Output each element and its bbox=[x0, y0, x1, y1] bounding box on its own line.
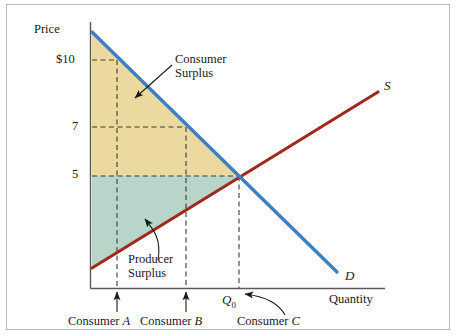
x-marker-consumer-c: Consumer C bbox=[237, 314, 300, 329]
producer-surplus-line2: Surplus bbox=[128, 266, 173, 280]
consumer-c-pointer bbox=[245, 294, 285, 315]
y-tick-label-7: 7 bbox=[72, 119, 78, 134]
x-marker-consumer-a: Consumer A bbox=[68, 314, 130, 329]
consumer-surplus-annotation: Consumer Surplus bbox=[175, 52, 226, 80]
q0-base: Q bbox=[222, 292, 231, 307]
consumer-c-letter: C bbox=[292, 314, 300, 328]
x-marker-consumer-b: Consumer B bbox=[140, 314, 202, 329]
q0-subscript: 0 bbox=[231, 300, 236, 310]
consumer-b-prefix: Consumer bbox=[140, 314, 191, 328]
x-axis-label: Quantity bbox=[329, 292, 373, 307]
supply-demand-chart bbox=[0, 0, 456, 336]
consumer-c-prefix: Consumer bbox=[237, 314, 288, 328]
producer-surplus-line1: Producer bbox=[128, 252, 173, 266]
supply-curve-label: S bbox=[384, 78, 391, 94]
y-tick-label-5: 5 bbox=[72, 167, 78, 182]
y-tick-label-10: $10 bbox=[56, 52, 75, 67]
consumer-surplus-line1: Consumer bbox=[175, 52, 226, 66]
demand-curve-label: D bbox=[345, 268, 354, 284]
y-axis-label: Price bbox=[34, 22, 60, 37]
producer-surplus-annotation: Producer Surplus bbox=[128, 252, 173, 280]
consumer-surplus-line2: Surplus bbox=[175, 66, 226, 80]
consumer-a-prefix: Consumer bbox=[68, 314, 119, 328]
consumer-b-letter: B bbox=[195, 314, 203, 328]
consumer-a-letter: A bbox=[123, 314, 131, 328]
equilibrium-quantity-label: Q0 bbox=[222, 292, 236, 310]
